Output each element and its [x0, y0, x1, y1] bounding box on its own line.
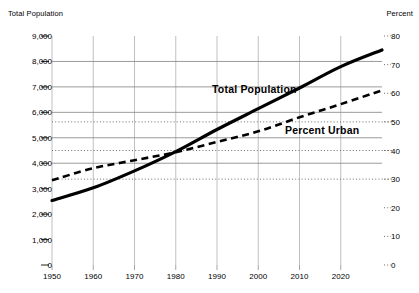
- x-axis-tick-label: 1950: [43, 272, 61, 281]
- series-label-percent-urban: Percent Urban: [285, 124, 359, 136]
- left-tick-marks: [41, 36, 49, 265]
- x-axis-tick-label: 2000: [249, 272, 267, 281]
- plot-area: [0, 0, 419, 293]
- series-label-total-population: Total Population: [212, 83, 297, 95]
- x-axis-tick-label: 1980: [167, 272, 185, 281]
- x-axis-tick-label: 1970: [126, 272, 144, 281]
- left-axis-tick-label: 2,000: [32, 210, 52, 219]
- right-axis-tick-label: 10: [391, 232, 400, 241]
- x-axis-tick-label: 1990: [208, 272, 226, 281]
- left-axis-tick-label: 0: [48, 261, 52, 270]
- x-axis-tick-label: 2010: [291, 272, 309, 281]
- right-axis-tick-label: 30: [391, 175, 400, 184]
- left-axis-tick-label: 1,000: [32, 235, 52, 244]
- right-axis-tick-label: 20: [391, 203, 400, 212]
- left-axis-tick-label: 7,000: [32, 82, 52, 91]
- left-axis-tick-label: 6,000: [32, 108, 52, 117]
- left-axis-tick-label: 8,000: [32, 57, 52, 66]
- right-axis-tick-label: 80: [391, 32, 400, 41]
- left-axis-tick-label: 3,000: [32, 184, 52, 193]
- right-axis-tick-label: 70: [391, 60, 400, 69]
- right-axis-tick-label: 40: [391, 146, 400, 155]
- x-axis-tick-label: 1960: [84, 272, 102, 281]
- x-tick-marks: [52, 265, 341, 270]
- right-axis-tick-label: 0: [391, 261, 395, 270]
- population-urbanization-chart: Total Population Percent 01,0002,0003,00…: [0, 0, 419, 293]
- right-axis-tick-label: 50: [391, 117, 400, 126]
- left-axis-tick-label: 4,000: [32, 159, 52, 168]
- left-axis-tick-label: 5,000: [32, 133, 52, 142]
- right-axis-tick-label: 60: [391, 89, 400, 98]
- x-axis-tick-label: 2020: [332, 272, 350, 281]
- left-axis-tick-label: 9,000: [32, 32, 52, 41]
